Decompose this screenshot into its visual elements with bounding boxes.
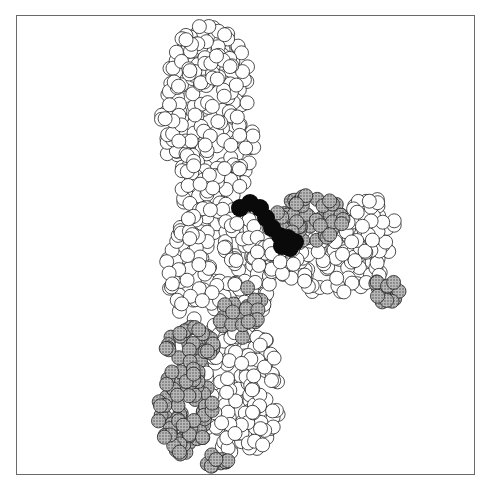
- molecule-model: [0, 0, 489, 492]
- gray-right-tip-patch: [369, 275, 406, 309]
